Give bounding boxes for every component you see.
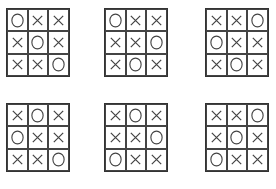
board-cell [146,31,167,53]
board-cell [28,126,49,148]
x-mark-icon [250,152,265,167]
x-mark-icon [229,13,244,28]
x-mark-icon [250,57,265,72]
o-mark-icon [128,57,143,72]
board-cell [126,31,147,53]
board-cell [126,9,147,31]
board-cell [48,149,69,171]
o-mark-icon [51,152,66,167]
board-cell [206,9,227,31]
board-cell [126,126,147,148]
o-mark-icon [250,13,265,28]
x-mark-icon [128,35,143,50]
x-mark-icon [10,57,25,72]
board-cell [146,126,167,148]
o-mark-icon [128,108,143,123]
board-cell [48,9,69,31]
board-cell [227,104,248,126]
board-cell [28,9,49,31]
board-cell [7,54,28,76]
board-cell [7,9,28,31]
x-mark-icon [149,152,164,167]
x-mark-icon [229,35,244,50]
o-mark-icon [108,152,123,167]
board-cell [28,149,49,171]
board-cell [227,149,248,171]
o-mark-icon [149,130,164,145]
x-mark-icon [51,35,66,50]
x-mark-icon [209,130,224,145]
board-cell [105,104,126,126]
x-mark-icon [128,13,143,28]
board-cell [247,31,268,53]
board-cell [247,126,268,148]
x-mark-icon [128,152,143,167]
board-cell [247,104,268,126]
board-cell [247,54,268,76]
board-cell [48,31,69,53]
board-cell [146,54,167,76]
x-mark-icon [108,35,123,50]
board-2 [104,8,168,77]
x-mark-icon [229,152,244,167]
o-mark-icon [229,57,244,72]
board-cell [146,9,167,31]
board-cell [7,126,28,148]
board-cell [206,126,227,148]
o-mark-icon [149,35,164,50]
board-cell [48,126,69,148]
board-cell [146,104,167,126]
x-mark-icon [128,130,143,145]
board-cell [105,149,126,171]
board-cell [28,104,49,126]
x-mark-icon [30,13,45,28]
o-mark-icon [229,130,244,145]
board-cell [28,54,49,76]
x-mark-icon [209,13,224,28]
o-mark-icon [30,35,45,50]
x-mark-icon [250,35,265,50]
board-cell [206,54,227,76]
x-mark-icon [30,152,45,167]
x-mark-icon [10,108,25,123]
x-mark-icon [10,35,25,50]
o-mark-icon [51,57,66,72]
o-mark-icon [108,13,123,28]
o-mark-icon [10,13,25,28]
board-cell [7,149,28,171]
board-cell [7,104,28,126]
board-cell [105,9,126,31]
x-mark-icon [209,57,224,72]
board-cell [105,126,126,148]
o-mark-icon [209,35,224,50]
x-mark-icon [229,108,244,123]
x-mark-icon [10,152,25,167]
board-cell [227,9,248,31]
board-cell [206,149,227,171]
board-cell [126,104,147,126]
x-mark-icon [30,57,45,72]
board-cell [105,54,126,76]
x-mark-icon [149,108,164,123]
x-mark-icon [149,13,164,28]
board-cell [48,54,69,76]
board-cell [105,31,126,53]
x-mark-icon [250,130,265,145]
board-5 [104,103,168,172]
x-mark-icon [149,57,164,72]
board-cell [146,149,167,171]
board-cell [227,31,248,53]
board-6 [205,103,269,172]
board-cell [206,104,227,126]
board-4 [6,103,70,172]
board-cell [126,149,147,171]
x-mark-icon [51,130,66,145]
board-cell [48,104,69,126]
board-cell [28,31,49,53]
x-mark-icon [51,108,66,123]
board-cell [7,31,28,53]
board-cell [227,54,248,76]
x-mark-icon [51,13,66,28]
x-mark-icon [108,130,123,145]
board-cell [206,31,227,53]
